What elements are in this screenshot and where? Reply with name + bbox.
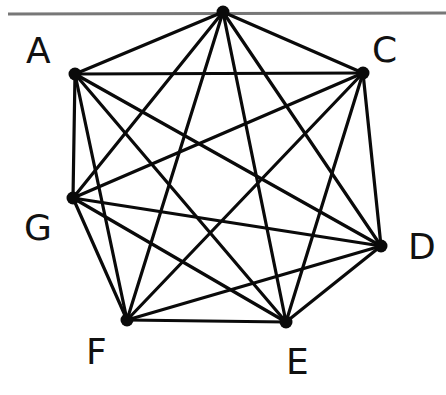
- edge-c-f: [127, 73, 363, 320]
- edge-a-g: [73, 74, 75, 198]
- vertex-label-g: G: [24, 207, 52, 248]
- edge-a-f: [75, 74, 127, 320]
- vertex-a: [69, 68, 82, 81]
- vertex-label-f: F: [86, 331, 107, 372]
- vertex-label-c: C: [372, 29, 397, 70]
- vertex-c: [357, 67, 370, 80]
- vertex-label-e: E: [286, 341, 309, 382]
- edge-e-f: [127, 320, 286, 322]
- vertex-label-d: D: [408, 226, 436, 267]
- vertex-label-a: A: [26, 30, 51, 71]
- edge-d-e: [286, 246, 381, 322]
- edge-g-f: [73, 198, 127, 320]
- edge-g-d: [73, 198, 381, 246]
- vertex-d: [375, 240, 388, 253]
- vertex-f: [121, 314, 134, 327]
- graph-diagram: ACGDEF: [0, 0, 446, 395]
- vertex-e: [280, 316, 293, 329]
- edge-a-c: [75, 73, 363, 74]
- edge-t-f: [127, 12, 223, 320]
- vertex-g: [67, 192, 80, 205]
- edges-group: [73, 12, 381, 322]
- edge-d-f: [127, 246, 381, 320]
- edge-c-d: [363, 73, 381, 246]
- edge-a-e: [75, 74, 286, 322]
- edge-t-a: [75, 12, 223, 74]
- vertex-t: [217, 6, 230, 19]
- edge-c-g: [73, 73, 363, 198]
